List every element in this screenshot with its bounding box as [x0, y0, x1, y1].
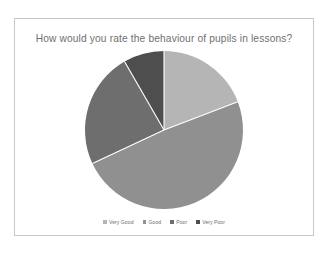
legend-item[interactable]: Good: [143, 219, 162, 225]
chart-frame: How would you rate the behaviour of pupi…: [14, 18, 314, 236]
legend-swatch-icon: [143, 220, 147, 224]
legend-item-label: Poor: [176, 219, 187, 225]
legend-swatch-icon: [103, 220, 107, 224]
legend-item-label: Very Good: [109, 219, 134, 225]
legend-item[interactable]: Poor: [170, 219, 187, 225]
pie-chart: [15, 19, 315, 237]
legend-swatch-icon: [196, 220, 200, 224]
legend-item[interactable]: Very Poor: [196, 219, 225, 225]
legend-item[interactable]: Very Good: [103, 219, 134, 225]
legend-item-label: Good: [149, 219, 162, 225]
screenshot-root: How would you rate the behaviour of pupi…: [0, 0, 329, 255]
chart-legend: Very GoodGoodPoorVery Poor: [15, 219, 313, 225]
pie-chart-svg: [15, 19, 315, 237]
legend-item-label: Very Poor: [202, 219, 225, 225]
legend-swatch-icon: [170, 220, 174, 224]
